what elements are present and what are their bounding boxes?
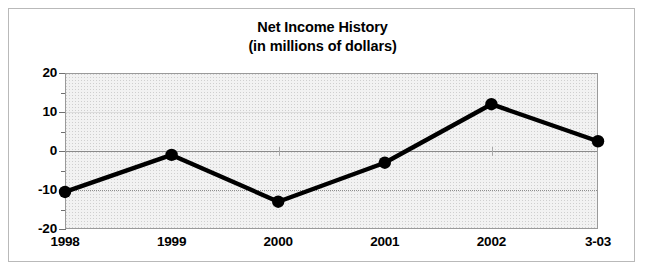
- chart-card: Net Income History (in millions of dolla…: [8, 8, 635, 262]
- x-gridtick-2002: [492, 147, 493, 156]
- y-tick-label--10: -10: [9, 183, 57, 197]
- x-axis-tick-labels: 199819992000200120023-03: [9, 235, 636, 257]
- chart-figure: Net Income History (in millions of dolla…: [0, 0, 645, 272]
- x-tick-label-2001: 2001: [345, 235, 425, 249]
- y-tick-label-10: 10: [9, 105, 57, 119]
- y-tick-label-20: 20: [9, 66, 57, 80]
- x-tick-label-3-03: 3-03: [558, 235, 638, 249]
- gridline--10: [66, 190, 597, 191]
- x-gridtick-2000: [279, 147, 280, 156]
- x-tick-label-1999: 1999: [132, 235, 212, 249]
- x-tick-label-2000: 2000: [238, 235, 318, 249]
- gridline-10: [66, 112, 597, 113]
- x-tick-label-2002: 2002: [451, 235, 531, 249]
- x-tick-label-1998: 1998: [25, 235, 105, 249]
- chart-title-line1: Net Income History: [257, 19, 387, 35]
- gridline-0: [66, 151, 597, 152]
- chart-title: Net Income History (in millions of dolla…: [9, 18, 636, 56]
- y-axis-tick-labels: 20100-10-20: [9, 73, 57, 230]
- y-tick--20: [59, 229, 66, 230]
- chart-subtitle: (in millions of dollars): [9, 37, 636, 56]
- plot-area: [65, 73, 598, 229]
- y-tick-label-0: 0: [9, 144, 57, 158]
